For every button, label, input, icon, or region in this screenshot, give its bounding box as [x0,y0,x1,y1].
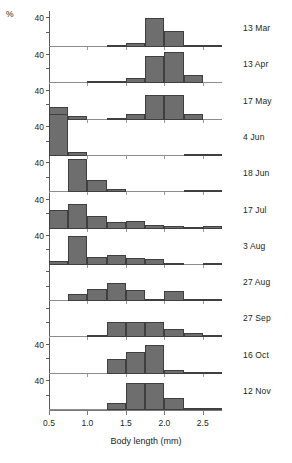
y-tick-40 [46,90,49,91]
y-tick-minor [46,358,49,359]
figure-root: % 0.51.01.52.02.5 Body length (mm) 4013 … [0,0,292,463]
histogram-bar [145,322,164,338]
panel-y-axis [49,338,50,374]
histogram-bar [126,352,145,374]
panel-date-label: 16 Oct [243,350,269,360]
histogram-bar [126,258,145,264]
panel-plot-area [49,374,222,410]
histogram-bar [68,159,87,192]
y-axis-tick-label: 40 [22,376,44,386]
histogram-bar [145,95,164,119]
panel-plot-area [49,156,222,192]
x-axis-tick-label: 2.0 [158,418,170,428]
histogram-panel [49,193,222,229]
histogram-bar [184,75,203,83]
histogram-bar [126,290,145,302]
y-tick-minor [46,395,49,396]
panel-date-label: 27 Aug [243,277,270,287]
histogram-bar [145,345,164,374]
y-tick-minor [46,322,49,323]
panel-plot-area [49,265,222,301]
histogram-bar [164,31,183,47]
panel-plot-area [49,338,222,374]
panel-plot-area [49,84,222,120]
histogram-bar [87,289,106,301]
panel-date-label: 4 Jun [243,132,265,142]
x-axis-tick-label: 2.5 [197,418,209,428]
histogram-panel [49,11,222,47]
x-axis-tick [164,411,165,415]
panel-y-axis [49,229,50,265]
histogram-bar [145,56,164,83]
panel-y-axis [49,265,50,301]
y-tick-minor [46,68,49,69]
histogram-bar [68,236,87,265]
histogram-bar [107,403,126,410]
histogram-bar [107,222,126,228]
histogram-panel [49,265,222,301]
percent-axis-label: % [6,9,14,19]
histogram-bar [68,204,87,228]
histogram-bar [68,294,87,301]
y-tick-40 [46,271,49,272]
y-tick-40 [46,308,49,309]
panel-date-label: 27 Sep [243,313,271,323]
histogram-bar [107,322,126,338]
y-tick-minor [46,177,49,178]
histogram-bar [164,291,183,301]
y-tick-40 [46,235,49,236]
histogram-bar [164,52,183,84]
histogram-bar [184,114,203,120]
y-axis-tick-label: 40 [22,13,44,23]
histogram-bar [145,259,164,265]
histogram-bar [107,359,126,373]
histogram-bar [145,383,164,410]
panel-date-label: 18 Jun [243,168,269,178]
histogram-panel [49,84,222,120]
histogram-bar [107,283,126,301]
histogram-bar [87,257,106,265]
panel-date-label: 13 Mar [243,23,270,33]
y-axis-tick-label: 40 [22,50,44,60]
panel-date-label: 12 Nov [243,386,271,396]
histogram-panel [49,47,222,83]
panel-date-label: 13 Apr [243,59,268,69]
histogram-panel [49,229,222,265]
y-tick-minor [46,104,49,105]
y-axis-tick-label: 40 [22,231,44,241]
histogram-bar [164,95,183,119]
panel-y-axis [49,301,50,337]
panel-plot-area [49,193,222,229]
panel-date-label: 17 Jul [243,205,267,215]
y-axis-tick-label: 40 [22,122,44,132]
x-axis-tick-label: 1.5 [120,418,132,428]
y-axis-tick-label: 40 [22,86,44,96]
histogram-panel [49,374,222,410]
histogram-panel [49,120,222,156]
histogram-bar [49,114,68,156]
y-tick-minor [46,32,49,33]
y-tick-40 [46,344,49,345]
panel-plot-area [49,229,222,265]
panel-date-label: 17 May [243,96,272,106]
panel-plot-area [49,47,222,83]
y-axis-tick-label: 40 [22,340,44,350]
y-axis-tick-label: 40 [22,158,44,168]
panel-plot-area [49,120,222,156]
histogram-bar [126,322,145,338]
histogram-bar [164,398,183,410]
x-axis-tick [49,411,50,415]
y-tick-40 [46,162,49,163]
x-axis-title: Body length (mm) [0,436,292,446]
histogram-panel [49,156,222,192]
y-tick-40 [46,199,49,200]
histogram-bar [164,329,183,338]
x-axis-tick-label: 0.5 [43,418,55,428]
histogram-bar [87,216,106,229]
y-tick-40 [46,380,49,381]
panel-y-axis [49,156,50,192]
histogram-bar [145,18,164,47]
histogram-bar [126,114,145,120]
histogram-bar [49,210,68,229]
histogram-bar [126,221,145,229]
